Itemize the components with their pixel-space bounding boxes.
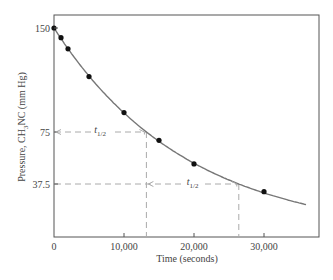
fit-curve (54, 28, 306, 205)
y-axis-title: Pressure, CH3NC (mm Hg) (16, 72, 30, 182)
data-points (51, 25, 266, 194)
data-point (156, 138, 161, 143)
y-tick-label: 75 (40, 127, 50, 138)
x-tick-label: 10,000 (110, 241, 138, 252)
x-tick-label: 30,000 (250, 241, 278, 252)
half-life-guides (55, 132, 239, 237)
y-tick-label: 37.5 (33, 179, 51, 190)
pressure-vs-time-chart: 010,00020,00030,000 1507537.5 t1/2t1/2 T… (0, 0, 333, 280)
data-point (86, 74, 91, 79)
x-tick-label: 0 (52, 241, 57, 252)
x-axis-ticks: 010,00020,00030,000 (52, 233, 278, 252)
data-point (261, 189, 266, 194)
y-tick-label: 150 (35, 23, 50, 34)
x-axis-title: Time (seconds) (156, 253, 218, 265)
data-point (191, 161, 196, 166)
data-point (65, 46, 70, 51)
decay-curve (54, 28, 306, 205)
x-tick-label: 20,000 (180, 241, 208, 252)
data-point (58, 35, 63, 40)
data-point (121, 110, 126, 115)
